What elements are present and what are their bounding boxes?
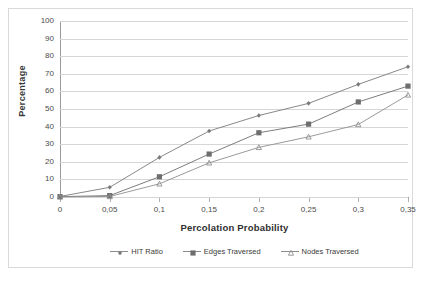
data-point-marker	[306, 101, 310, 106]
series-line	[60, 67, 408, 197]
x-tick-mark	[209, 198, 210, 202]
series-line	[60, 95, 408, 197]
data-point-marker	[257, 113, 261, 118]
data-point-marker	[157, 155, 161, 160]
y-tick-label: 30	[14, 140, 54, 148]
series-layer	[60, 21, 408, 197]
legend-item-edges-traversed[interactable]: Edges Traversed	[183, 247, 261, 256]
data-point-marker	[356, 99, 361, 104]
data-point-marker	[256, 130, 261, 135]
plot-area	[60, 21, 408, 197]
x-tick-label: 0,2	[239, 206, 279, 214]
x-tick-label: 0	[40, 206, 80, 214]
legend-label: Nodes Traversed	[302, 247, 359, 256]
y-tick-label: 20	[14, 158, 54, 166]
data-point-marker	[157, 174, 162, 179]
x-axis-title: Percolation Probability	[60, 222, 409, 233]
x-tick-mark	[259, 198, 260, 202]
data-point-marker	[108, 185, 112, 190]
series-nodes-traversed	[57, 92, 410, 199]
x-tick-mark	[309, 198, 310, 202]
x-tick-mark	[159, 198, 160, 202]
legend-marker-triangle-icon	[281, 248, 299, 256]
y-tick-label: 0	[14, 193, 54, 201]
data-point-marker	[190, 250, 195, 255]
legend-label: Edges Traversed	[204, 247, 261, 256]
y-tick-label: 50	[14, 105, 54, 113]
series-edges-traversed	[57, 84, 410, 200]
data-point-marker	[118, 250, 122, 255]
x-tick-label: 0,35	[388, 206, 423, 214]
y-tick-label: 70	[14, 70, 54, 78]
legend-marker-diamond-icon	[110, 248, 128, 256]
y-tick-label: 60	[14, 87, 54, 95]
data-point-marker	[356, 82, 360, 87]
data-point-marker	[306, 122, 311, 127]
series-hit-ratio	[58, 64, 410, 198]
legend-item-hit-ratio[interactable]: HIT Ratio	[110, 247, 163, 256]
x-tick-mark	[408, 198, 409, 202]
y-tick-label: 10	[14, 175, 54, 183]
x-tick-label: 0,25	[289, 206, 329, 214]
chart-figure: Percentage 0102030405060708090100 00,050…	[0, 0, 423, 283]
y-tick-label: 40	[14, 123, 54, 131]
y-tick-label: 80	[14, 52, 54, 60]
chart-legend: HIT RatioEdges TraversedNodes Traversed	[60, 247, 409, 256]
legend-label: HIT Ratio	[131, 247, 163, 256]
x-tick-label: 0,15	[189, 206, 229, 214]
y-tick-label: 90	[14, 35, 54, 43]
x-tick-label: 0,3	[338, 206, 378, 214]
y-tick-label: 100	[14, 17, 54, 25]
data-point-marker	[207, 151, 212, 156]
x-tick-mark	[358, 198, 359, 202]
data-point-marker	[288, 250, 293, 255]
data-point-marker	[405, 84, 410, 89]
legend-marker-square-icon	[183, 248, 201, 256]
data-point-marker	[207, 129, 211, 134]
x-tick-label: 0,1	[139, 206, 179, 214]
x-tick-label: 0,05	[90, 206, 130, 214]
legend-item-nodes-traversed[interactable]: Nodes Traversed	[281, 247, 359, 256]
